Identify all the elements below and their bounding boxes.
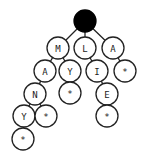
node-label: * xyxy=(67,89,72,99)
terminal-node: * xyxy=(59,82,81,104)
trie-node: L xyxy=(74,37,96,59)
node-label: L xyxy=(82,44,87,54)
node-label: I xyxy=(94,67,99,77)
trie-node: N xyxy=(24,83,46,105)
root-node xyxy=(74,10,96,32)
root-circle-icon xyxy=(74,10,96,32)
trie-node: A xyxy=(102,37,124,59)
terminal-node: * xyxy=(114,60,136,82)
node-label: E xyxy=(104,90,109,100)
nodes: MLAAYI*N*EY*** xyxy=(12,10,136,150)
node-label: Y xyxy=(21,112,27,122)
trie-node: A xyxy=(34,60,56,82)
trie-node: M xyxy=(47,37,69,59)
trie-node: I xyxy=(86,60,108,82)
node-label: Y xyxy=(67,67,73,77)
terminal-node: * xyxy=(96,105,118,127)
trie-node: E xyxy=(96,83,118,105)
node-label: * xyxy=(20,135,25,145)
node-label: * xyxy=(122,67,127,77)
trie-node: Y xyxy=(13,105,35,127)
node-label: M xyxy=(55,44,61,54)
trie-diagram: MLAAYI*N*EY*** xyxy=(0,0,146,163)
terminal-node: * xyxy=(12,128,34,150)
node-label: A xyxy=(42,67,48,77)
node-label: A xyxy=(110,44,116,54)
node-label: N xyxy=(32,90,37,100)
terminal-node: * xyxy=(35,105,57,127)
trie-canvas: MLAAYI*N*EY*** xyxy=(0,0,146,163)
node-label: * xyxy=(43,112,48,122)
trie-node: Y xyxy=(59,60,81,82)
node-label: * xyxy=(104,112,109,122)
